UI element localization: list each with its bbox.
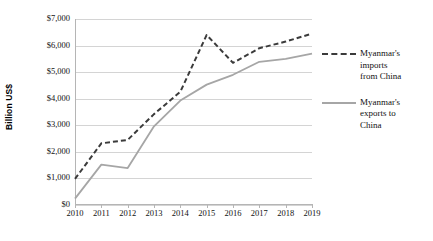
legend-entry-exports[interactable]: Myanmar's exports to China: [322, 97, 430, 132]
plot-area: [75, 19, 312, 205]
y-axis-tick-label: $7,000: [24, 14, 70, 23]
legend-label-exports-line3: China: [360, 120, 382, 130]
y-axis-tick-label: $2,000: [24, 147, 70, 156]
legend-label-exports-line2: exports to: [360, 108, 396, 118]
x-axis-tick-labels: 2010201120122013201420152016201720182019: [75, 208, 312, 226]
series-line: [75, 54, 312, 199]
series-lines: [75, 19, 312, 205]
legend-label-exports: Myanmar's exports to China: [360, 97, 400, 132]
dashed-line-icon: [322, 48, 356, 59]
legend-entry-imports[interactable]: Myanmar's imports from China: [322, 48, 430, 83]
y-axis-tick-label: $5,000: [24, 67, 70, 76]
legend-label-imports-line3: from China: [360, 71, 401, 81]
y-axis-title: Billion US$: [2, 52, 16, 162]
legend-label-imports-line1: Myanmar's: [360, 48, 400, 58]
gridline: [75, 205, 312, 206]
legend-label-imports-line2: imports: [360, 60, 388, 70]
legend-label-exports-line1: Myanmar's: [360, 97, 400, 107]
y-axis-tick-label: $1,000: [24, 173, 70, 182]
y-axis-tick-label: $3,000: [24, 120, 70, 129]
line-chart: Billion US$ $0$1,000$2,000$3,000$4,000$5…: [0, 0, 433, 241]
series-line: [75, 34, 312, 179]
y-axis-tick-labels: $0$1,000$2,000$3,000$4,000$5,000$6,000$7…: [22, 0, 70, 241]
solid-line-icon: [322, 97, 356, 108]
y-axis-tick-label: $4,000: [24, 94, 70, 103]
legend-label-imports: Myanmar's imports from China: [360, 48, 401, 83]
x-axis-tick-label: 2019: [297, 208, 327, 218]
y-axis-tick-label: $6,000: [24, 41, 70, 50]
legend: Myanmar's imports from China Myanmar's e…: [322, 48, 430, 145]
y-axis-title-text: Billion US$: [4, 84, 14, 130]
